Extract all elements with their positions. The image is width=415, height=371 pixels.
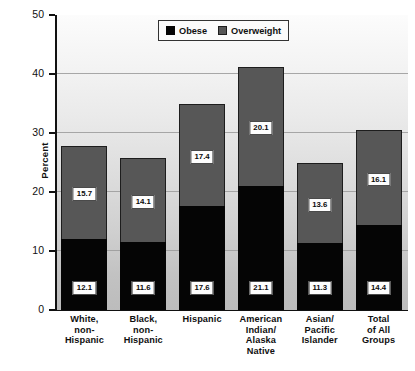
y-tick-label: 30	[10, 126, 44, 138]
bar-segment-obese: 11.6	[120, 242, 166, 310]
legend-item: Overweight	[218, 26, 281, 36]
bars-layer: 15.712.114.111.617.417.620.121.113.611.3…	[55, 15, 408, 310]
x-axis-category-label: Asian/PacificIslander	[288, 314, 352, 346]
y-tick-label: 50	[10, 8, 44, 20]
legend-swatch-icon	[166, 26, 175, 35]
legend-label: Overweight	[231, 26, 281, 36]
legend-item: Obese	[166, 26, 207, 36]
bar-group: 20.121.1	[238, 67, 284, 310]
y-tick-label: 0	[10, 303, 44, 315]
x-axis-category-label: Totalof AllGroups	[347, 314, 411, 346]
data-label: 14.1	[132, 195, 155, 209]
data-label: 17.6	[190, 281, 213, 295]
bar-segment-overweight: 20.1	[238, 67, 284, 186]
bar-group: 17.417.6	[179, 104, 225, 310]
x-axis-category-label: AmericanIndian/AlaskaNative	[229, 314, 293, 356]
data-label: 15.7	[73, 187, 96, 201]
bar-group: 15.712.1	[61, 146, 107, 310]
x-axis-category-label: Hispanic	[170, 314, 234, 325]
legend-swatch-icon	[218, 26, 227, 35]
bar-segment-overweight: 15.7	[61, 146, 107, 239]
bar-group: 16.114.4	[356, 130, 402, 310]
data-label: 21.1	[249, 281, 272, 295]
bar-segment-overweight: 14.1	[120, 158, 166, 241]
bar-segment-obese: 12.1	[61, 239, 107, 310]
data-label: 20.1	[249, 121, 272, 135]
y-tick-label: 20	[10, 185, 44, 197]
bar-segment-obese: 21.1	[238, 186, 284, 310]
chart-legend: ObeseOverweight	[158, 20, 289, 41]
x-axis-labels: White,non-HispanicBlack,non-HispanicHisp…	[55, 314, 408, 371]
data-label: 16.1	[367, 173, 390, 187]
bar-segment-obese: 11.3	[297, 243, 343, 310]
x-axis-category-label: White,non-Hispanic	[52, 314, 116, 346]
bar-segment-obese: 17.6	[179, 206, 225, 310]
data-label: 17.4	[190, 150, 213, 164]
x-axis-category-label: Black,non-Hispanic	[111, 314, 175, 346]
legend-label: Obese	[179, 26, 207, 36]
y-tick-label: 10	[10, 244, 44, 256]
bar-segment-overweight: 16.1	[356, 130, 402, 225]
bar-segment-obese: 14.4	[356, 225, 402, 310]
data-label: 13.6	[308, 198, 331, 212]
bar-group: 13.611.3	[297, 163, 343, 310]
bar-segment-overweight: 17.4	[179, 104, 225, 207]
bar-group: 14.111.6	[120, 158, 166, 310]
y-tick-label: 40	[10, 67, 44, 79]
data-label: 14.4	[367, 281, 390, 295]
data-label: 11.3	[308, 281, 331, 295]
data-label: 12.1	[73, 281, 96, 295]
bar-segment-overweight: 13.6	[297, 163, 343, 243]
data-label: 11.6	[132, 281, 155, 295]
stacked-bar-chart: Percent 01020304050 15.712.114.111.617.4…	[0, 0, 415, 371]
